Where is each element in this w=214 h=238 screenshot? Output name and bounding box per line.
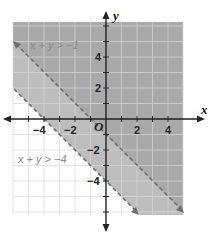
y-axis-arrow-up-icon: [103, 11, 110, 19]
inequality-label-1: x + y > −1: [29, 39, 79, 51]
y-axis-label: y: [111, 8, 119, 23]
y-axis-arrow-down-icon: [103, 224, 110, 232]
x-axis-label: x: [200, 102, 208, 117]
y-tick-label: 2: [95, 82, 101, 94]
y-tick-label: −4: [87, 175, 100, 187]
x-tick-label: 4: [165, 124, 172, 136]
inequality-label-2: x + y > −4: [17, 153, 67, 165]
x-tick-label: 2: [134, 124, 140, 136]
x-tick-label: −4: [33, 124, 46, 136]
x-axis-arrow-left-icon: [3, 116, 11, 123]
origin-label: O: [94, 119, 104, 134]
y-tick-label: −2: [87, 144, 100, 156]
inequality-graph: y x −4 −2 O 2 4 4 2 −2 −4 x + y > −1 x +…: [0, 0, 214, 238]
x-tick-label: −2: [64, 124, 77, 136]
y-tick-label: 4: [95, 51, 102, 63]
